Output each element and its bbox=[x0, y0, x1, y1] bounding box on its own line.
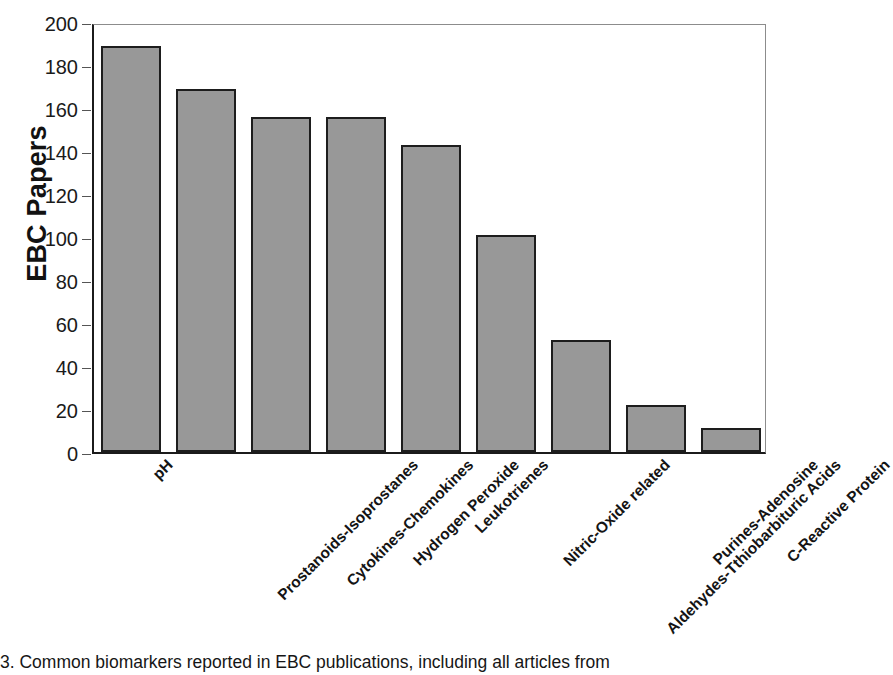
x-axis-tick-labels: pHProstanoids-IsoprostanesCytokines-Chem… bbox=[92, 456, 792, 636]
y-tick-label-20: 20 bbox=[16, 401, 78, 421]
y-tick-label-160: 160 bbox=[16, 100, 78, 120]
y-tick-label-120: 120 bbox=[16, 186, 78, 206]
y-tick-label-180: 180 bbox=[16, 57, 78, 77]
x-tick-label: Nitric-Oxide related bbox=[560, 456, 674, 570]
bar bbox=[251, 117, 311, 452]
bar bbox=[401, 145, 461, 452]
bar bbox=[626, 405, 686, 452]
y-tick-label-0: 0 bbox=[16, 444, 78, 464]
figure-caption: 3. Common biomarkers reported in EBC pub… bbox=[0, 650, 820, 674]
x-tick-label: Aldehydes-Tthiobarbituric Acids bbox=[663, 456, 845, 638]
bar bbox=[176, 89, 236, 452]
y-tick-label-140: 140 bbox=[16, 143, 78, 163]
y-tick-mark-140 bbox=[82, 153, 91, 154]
plot-area bbox=[92, 24, 766, 454]
bars-layer bbox=[94, 25, 765, 452]
y-tick-mark-200 bbox=[82, 24, 91, 25]
y-tick-mark-80 bbox=[82, 282, 91, 283]
y-tick-mark-100 bbox=[82, 239, 91, 240]
y-tick-mark-0 bbox=[82, 454, 91, 455]
y-tick-label-60: 60 bbox=[16, 315, 78, 335]
y-tick-mark-180 bbox=[82, 67, 91, 68]
bar bbox=[101, 46, 161, 452]
x-tick-label: pH bbox=[149, 456, 176, 483]
y-tick-mark-120 bbox=[82, 196, 91, 197]
y-tick-mark-40 bbox=[82, 368, 91, 369]
bar bbox=[476, 235, 536, 452]
y-tick-label-80: 80 bbox=[16, 272, 78, 292]
bar bbox=[701, 428, 761, 452]
y-tick-label-200: 200 bbox=[16, 14, 78, 34]
y-tick-mark-20 bbox=[82, 411, 91, 412]
y-tick-mark-60 bbox=[82, 325, 91, 326]
y-tick-label-100: 100 bbox=[16, 229, 78, 249]
y-axis-tick-labels: 200180160140120100806040200 bbox=[16, 24, 78, 454]
y-tick-mark-160 bbox=[82, 110, 91, 111]
y-tick-label-40: 40 bbox=[16, 358, 78, 378]
bar bbox=[551, 340, 611, 452]
bar bbox=[326, 117, 386, 452]
